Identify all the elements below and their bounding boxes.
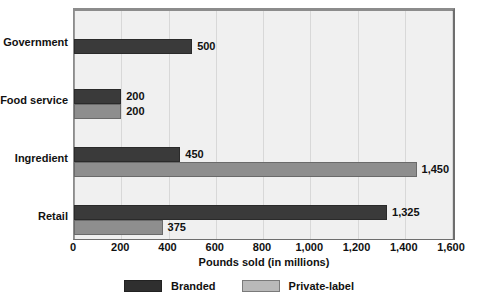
x-axis-tick-labels: 02004006008001,0001,2001,4001,600 (73, 241, 455, 257)
x-tick-label: 1,200 (343, 241, 371, 253)
legend-item: Private-label (242, 280, 354, 292)
category-label: Ingredient (0, 152, 68, 164)
x-tick-label: 800 (253, 241, 271, 253)
legend-label: Private-label (289, 280, 354, 292)
chart-legend: BrandedPrivate-label (0, 280, 478, 292)
x-tick-label: 0 (70, 241, 76, 253)
category-label: Government (0, 36, 68, 48)
x-tick-label: 1,000 (295, 241, 323, 253)
category-label: Retail (0, 210, 68, 222)
x-axis-title: Pounds sold (in millions) (73, 256, 455, 268)
x-tick-label: 1,400 (390, 241, 418, 253)
legend-swatch-icon (242, 280, 280, 292)
legend-label: Branded (171, 280, 216, 292)
category-axis-labels: GovernmentFood serviceIngredientRetail (0, 8, 478, 240)
x-tick-label: 1,600 (437, 241, 465, 253)
legend-item: Branded (124, 280, 216, 292)
x-tick-label: 200 (111, 241, 129, 253)
legend-swatch-icon (124, 280, 162, 292)
category-label: Food service (0, 94, 68, 106)
x-tick-label: 400 (158, 241, 176, 253)
x-tick-label: 600 (206, 241, 224, 253)
bar-chart: 5002002004501,4501,325375 GovernmentFood… (0, 0, 478, 306)
